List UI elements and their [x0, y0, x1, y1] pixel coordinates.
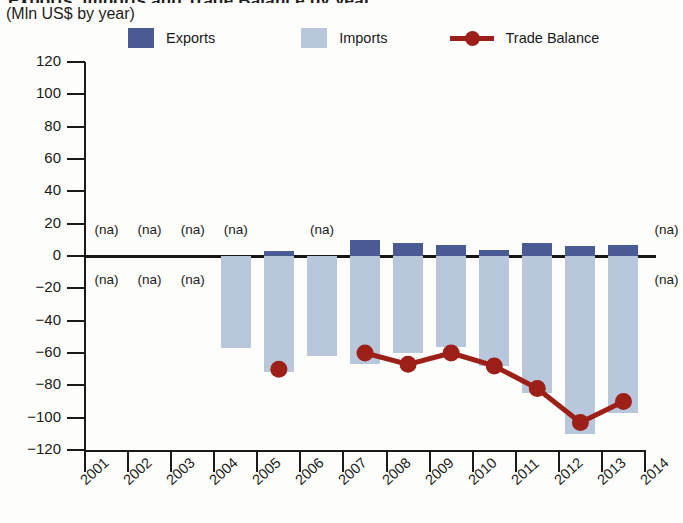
bar-import: [393, 256, 423, 353]
bar-import: [479, 256, 509, 366]
y-tick-label: −100: [0, 408, 61, 425]
bar-export: [436, 245, 466, 256]
bar-import: [350, 256, 380, 364]
y-tick-label: −20: [0, 278, 61, 295]
bar-export: [350, 240, 380, 256]
x-tick-label: 2009: [422, 454, 457, 487]
na-label-above: (na): [126, 222, 174, 237]
y-tick-label: 60: [0, 149, 61, 166]
x-tick-label: 2011: [508, 455, 542, 488]
bar-import: [565, 256, 595, 434]
y-tick-mark: [67, 287, 85, 289]
x-tick-label: 2006: [292, 454, 327, 487]
na-label-above: (na): [643, 222, 683, 237]
x-tick-label: 2014: [637, 454, 672, 487]
y-tick-label: 120: [0, 52, 61, 69]
y-tick-label: −80: [0, 375, 61, 392]
y-tick-mark: [67, 158, 85, 160]
x-axis-line: [84, 450, 646, 452]
na-label-above: (na): [169, 222, 217, 237]
na-label-below: (na): [643, 272, 683, 287]
y-tick-label: −120: [0, 440, 61, 457]
bar-import: [522, 256, 552, 393]
y-tick-mark: [67, 352, 85, 354]
x-tick-label: 2013: [594, 454, 629, 487]
y-tick-label: 40: [0, 181, 61, 198]
y-tick-label: 100: [0, 84, 61, 101]
na-label-below: (na): [169, 272, 217, 287]
na-label-above: (na): [298, 222, 346, 237]
na-label-above: (na): [212, 222, 260, 237]
bar-export: [479, 250, 509, 256]
na-label-below: (na): [126, 272, 174, 287]
y-tick-mark: [67, 417, 85, 419]
na-label-above: (na): [83, 222, 131, 237]
y-tick-label: 20: [0, 214, 61, 231]
y-tick-mark: [67, 190, 85, 192]
y-tick-mark: [67, 93, 85, 95]
bar-export: [264, 251, 294, 256]
bar-import: [307, 256, 337, 356]
x-tick-label: 2008: [379, 454, 414, 487]
bar-import: [436, 256, 466, 347]
y-tick-label: 80: [0, 117, 61, 134]
y-tick-mark: [67, 126, 85, 128]
y-tick-label: −40: [0, 311, 61, 328]
bar-import: [264, 256, 294, 372]
y-tick-label: 0: [0, 246, 61, 263]
bar-export: [393, 243, 423, 256]
y-tick-mark: [67, 320, 85, 322]
y-tick-mark: [67, 61, 85, 63]
bar-export: [522, 243, 552, 256]
x-tick-label: 2007: [335, 454, 370, 487]
y-tick-mark: [67, 384, 85, 386]
x-tick-label: 2002: [120, 454, 155, 487]
na-label-below: (na): [83, 272, 131, 287]
bar-export: [565, 246, 595, 256]
bar-import: [608, 256, 638, 413]
x-tick-label: 2012: [551, 454, 586, 487]
x-tick-label: 2001: [77, 454, 112, 487]
y-tick-mark: [67, 255, 85, 257]
y-tick-mark: [67, 449, 85, 451]
x-tick-label: 2005: [249, 454, 284, 487]
bar-export: [608, 245, 638, 256]
bar-import: [221, 256, 251, 348]
y-tick-label: −60: [0, 343, 61, 360]
x-tick-label: 2010: [465, 454, 500, 487]
x-tick-label: 2003: [163, 454, 198, 487]
x-tick-label: 2004: [206, 454, 241, 487]
